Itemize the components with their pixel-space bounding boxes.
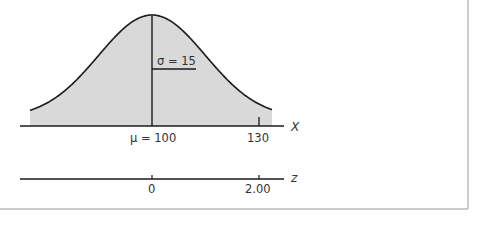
- sigma-label: σ = 15: [157, 54, 196, 68]
- z2-label: 2.00: [245, 182, 271, 196]
- x-axis-label: X: [290, 120, 300, 134]
- x130-label: 130: [247, 131, 269, 145]
- z0-label: 0: [148, 182, 155, 196]
- z-axis-label: z: [290, 171, 298, 185]
- curve-shaded-area: [30, 15, 272, 126]
- mu-label: μ = 100: [130, 131, 176, 145]
- normal-distribution-diagram: σ = 15 μ = 100 130 X 0 2.00 z: [0, 0, 478, 226]
